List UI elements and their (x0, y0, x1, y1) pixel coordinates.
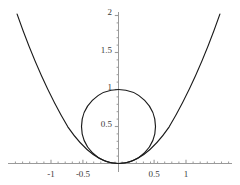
y-tick-label-0.5: 0.5 (86, 120, 112, 129)
x-tick-label-0.5: 0.5 (139, 170, 169, 179)
x-tick-label--0.5: -0.5 (67, 170, 99, 179)
x-tick-label--1: -1 (36, 170, 66, 179)
x-tick-label-1: 1 (171, 170, 201, 179)
plot-canvas (0, 0, 240, 185)
y-tick-label-1.5: 1.5 (86, 46, 112, 55)
plot-figure: 2 1.5 1 0.5 -1 -0.5 0.5 1 (0, 0, 240, 185)
y-axis-ticks (115, 16, 119, 157)
y-tick-label-2: 2 (86, 8, 112, 17)
y-tick-label-1: 1 (86, 83, 112, 92)
